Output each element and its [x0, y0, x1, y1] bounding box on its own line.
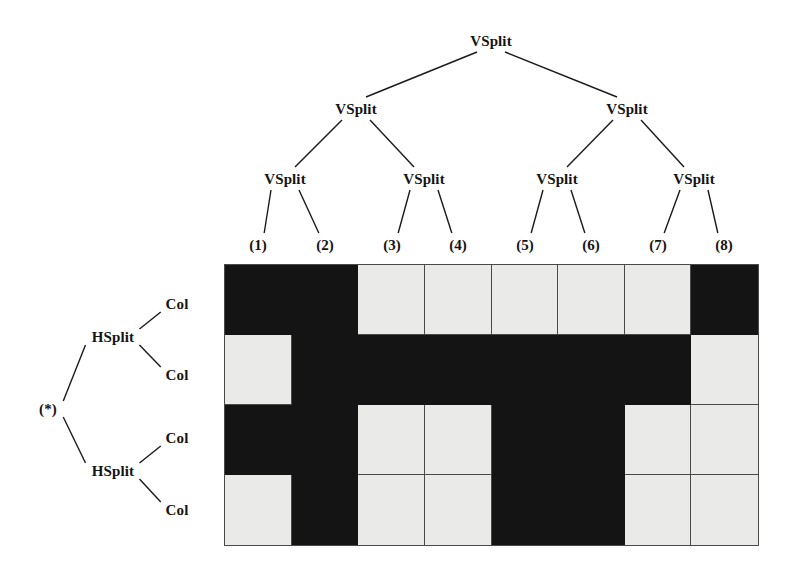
matrix-cell-r1-c3 [358, 265, 425, 335]
tree-node-v-root: VSplit [470, 33, 511, 50]
tree-node-v-rl: VSplit [536, 171, 577, 188]
matrix-cell-r1-c8 [691, 265, 758, 335]
matrix-cell-r2-c8 [691, 335, 758, 405]
matrix-cell-r4-c6 [558, 475, 625, 545]
matrix-cell-r1-c6 [558, 265, 625, 335]
matrix-cell-r3-c3 [358, 405, 425, 475]
matrix-cell-r3-c4 [425, 405, 492, 475]
matrix-cell-r3-c6 [558, 405, 625, 475]
matrix-cell-r3-c7 [625, 405, 692, 475]
tree-edge [264, 190, 271, 233]
tree-edge [505, 52, 617, 97]
tree-node-v-rr: VSplit [673, 171, 714, 188]
matrix-cell-r3-c8 [691, 405, 758, 475]
tree-node-col-1: Col [166, 296, 189, 313]
matrix-cell-r4-c5 [492, 475, 559, 545]
tree-edge [140, 446, 161, 463]
layout-matrix [224, 264, 759, 546]
tree-edge [299, 190, 319, 233]
matrix-cell-r4-c3 [358, 475, 425, 545]
tree-node-h-root: (*) [39, 401, 57, 418]
tree-edge [664, 190, 680, 233]
tree-leaf-leaf-3: (3) [383, 237, 401, 254]
matrix-cell-r1-c1 [225, 265, 292, 335]
matrix-cell-r3-c5 [492, 405, 559, 475]
vsplit-tree-edges [264, 52, 718, 233]
tree-node-col-4: Col [166, 502, 189, 519]
matrix-cell-r3-c2 [292, 405, 359, 475]
tree-edge [571, 190, 585, 233]
tree-leaf-leaf-4: (4) [449, 237, 467, 254]
tree-leaf-leaf-1: (1) [249, 237, 267, 254]
tree-edge [641, 120, 684, 167]
tree-edge [63, 417, 85, 463]
tree-leaf-leaf-8: (8) [715, 237, 733, 254]
tree-edge [438, 190, 452, 233]
tree-edge [295, 120, 342, 167]
tree-leaf-leaf-6: (6) [582, 237, 600, 254]
tree-edge [140, 345, 161, 367]
tree-node-h-top: HSplit [92, 329, 134, 346]
matrix-cell-r3-c1 [225, 405, 292, 475]
tree-node-h-bot: HSplit [92, 463, 134, 480]
tree-edge [531, 190, 543, 233]
tree-edge [708, 190, 718, 233]
matrix-cell-r4-c2 [292, 475, 359, 545]
tree-edge [366, 52, 477, 97]
matrix-cell-r1-c7 [625, 265, 692, 335]
tree-node-v-l: VSplit [335, 101, 376, 118]
tree-edge [567, 120, 613, 167]
tree-edge [370, 120, 414, 167]
matrix-cell-r4-c8 [691, 475, 758, 545]
tree-node-col-2: Col [166, 367, 189, 384]
matrix-cell-r1-c2 [292, 265, 359, 335]
matrix-cell-r2-c6 [558, 335, 625, 405]
tree-edge [398, 190, 410, 233]
tree-node-col-3: Col [166, 430, 189, 447]
matrix-cell-r4-c4 [425, 475, 492, 545]
matrix-cell-r4-c1 [225, 475, 292, 545]
matrix-cell-r1-c5 [492, 265, 559, 335]
tree-edge [63, 345, 85, 401]
matrix-cell-r2-c1 [225, 335, 292, 405]
matrix-cell-r2-c7 [625, 335, 692, 405]
matrix-cell-r2-c3 [358, 335, 425, 405]
tree-leaf-leaf-2: (2) [316, 237, 334, 254]
matrix-cell-r4-c7 [625, 475, 692, 545]
matrix-cell-r2-c4 [425, 335, 492, 405]
tree-edge [140, 312, 161, 329]
tree-node-v-r: VSplit [606, 101, 647, 118]
matrix-cell-r2-c2 [292, 335, 359, 405]
figure-canvas: VSplitVSplitVSplitVSplitVSplitVSplitVSpl… [0, 0, 792, 575]
matrix-cell-r1-c4 [425, 265, 492, 335]
tree-edge [140, 479, 161, 502]
tree-leaf-leaf-7: (7) [649, 237, 667, 254]
tree-node-v-lr: VSplit [403, 171, 444, 188]
matrix-cell-r2-c5 [492, 335, 559, 405]
tree-leaf-leaf-5: (5) [516, 237, 534, 254]
tree-node-v-ll: VSplit [264, 171, 305, 188]
